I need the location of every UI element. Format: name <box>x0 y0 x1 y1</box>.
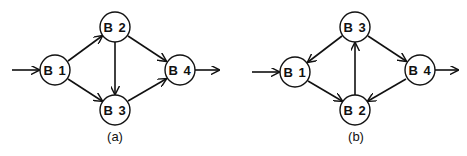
node-label: B 3 <box>103 103 126 118</box>
edge-b-b1-b2 <box>308 81 342 101</box>
node-label: B 1 <box>43 63 66 78</box>
node-a-b3: B 3 <box>100 95 130 125</box>
edge-b-b4-b2 <box>368 79 406 101</box>
edge-a-b3-b4 <box>128 79 166 101</box>
edge-b-b3-b1 <box>308 36 342 62</box>
node-label: B 3 <box>343 20 366 35</box>
node-a-b2: B 2 <box>100 12 130 42</box>
caption-b: (b) <box>348 129 364 144</box>
node-a-b4: B 4 <box>165 55 195 85</box>
node-a-b1: B 1 <box>40 55 70 85</box>
node-b-b4: B 4 <box>405 55 435 85</box>
diagram-canvas: B 1 B 2 B 3 B 4 (a) B 1 B 3 <box>0 0 467 156</box>
diagram-b: B 1 B 3 B 2 B 4 (b) <box>252 12 458 144</box>
edge-b-b3-b4 <box>368 36 406 61</box>
node-b-b1: B 1 <box>280 57 310 87</box>
node-label: B 1 <box>283 65 306 80</box>
node-label: B 2 <box>103 20 126 35</box>
node-label: B 4 <box>408 63 431 78</box>
node-label: B 2 <box>343 103 366 118</box>
node-b-b3: B 3 <box>340 12 370 42</box>
node-label: B 4 <box>168 63 191 78</box>
edge-a-b2-b4 <box>128 36 166 61</box>
diagram-a: B 1 B 2 B 3 B 4 (a) <box>12 12 219 144</box>
caption-a: (a) <box>107 129 123 144</box>
node-b-b2: B 2 <box>340 95 370 125</box>
edge-a-b1-b2 <box>68 36 102 61</box>
edge-a-b1-b3 <box>68 79 102 101</box>
